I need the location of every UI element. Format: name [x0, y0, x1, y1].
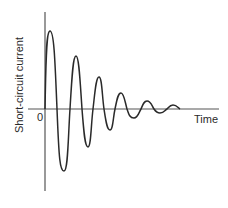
x-axis-label: Time [194, 113, 218, 125]
origin-label: 0 [37, 111, 43, 123]
current-curve [45, 31, 180, 171]
y-axis-label: Short-circuit current [13, 37, 25, 133]
chart-canvas [0, 0, 228, 208]
